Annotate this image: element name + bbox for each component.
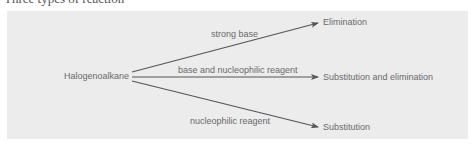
- condition-label-strong-base: strong base: [211, 29, 258, 39]
- condition-label-nucleophilic: nucleophilic reagent: [190, 116, 270, 126]
- source-label: Halogenoalkane: [64, 71, 129, 81]
- condition-label-base-nucleophilic: base and nucleophilic reagent: [178, 65, 298, 75]
- product-label-elimination: Elimination: [323, 17, 367, 27]
- product-label-substitution-and-elimination: Substitution and elimination: [323, 72, 433, 82]
- product-label-substitution: Substitution: [323, 122, 370, 132]
